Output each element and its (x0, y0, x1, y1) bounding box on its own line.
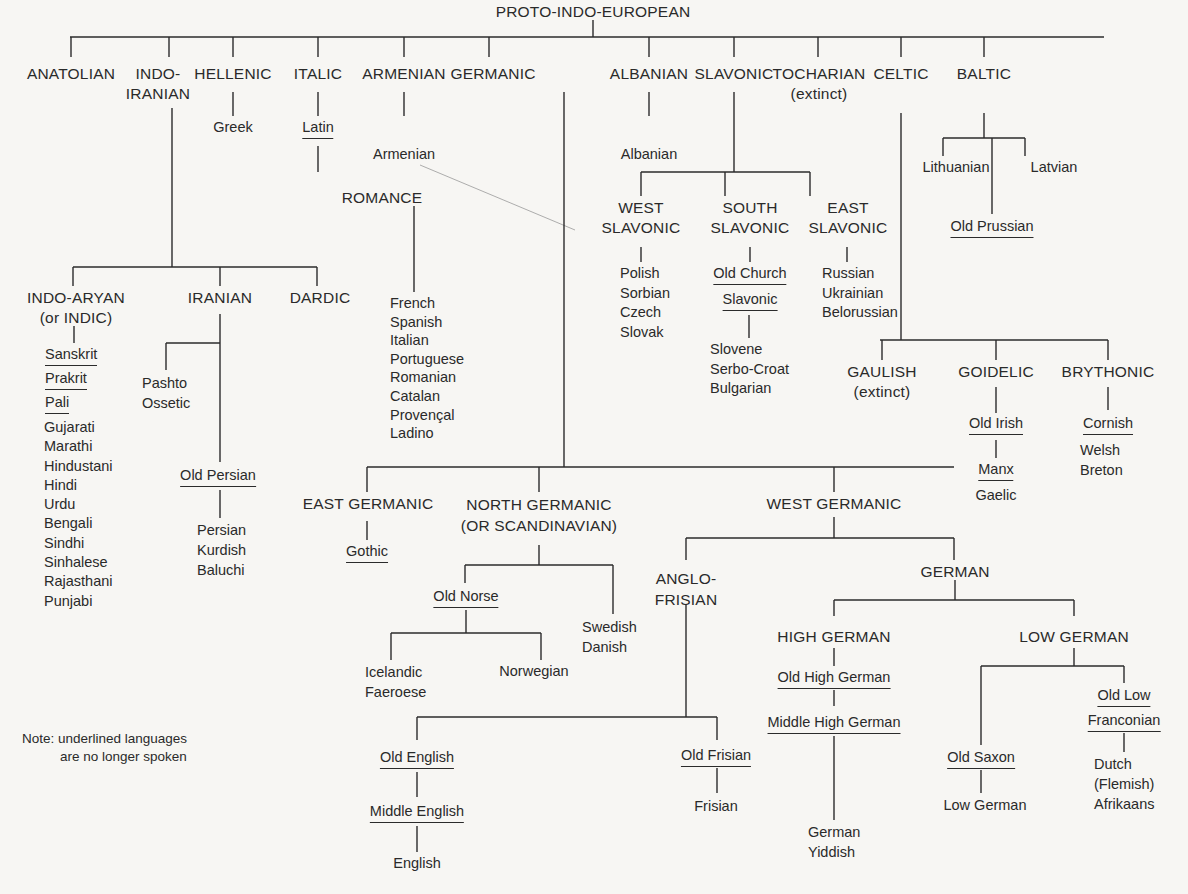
branch-slavonic: SLAVONIC (695, 64, 774, 83)
lang-item: Sorbian (620, 284, 670, 304)
lang-item: Danish (582, 637, 637, 657)
label-line: GAULISH (847, 362, 916, 382)
branch-low-german: LOW GERMAN (1019, 627, 1129, 646)
branch-anglo-frisian: ANGLO- FRISIAN (655, 568, 718, 610)
lang-item: Persian (197, 520, 246, 540)
lang-item: Ladino (390, 424, 464, 443)
lang-sanskrit: Sanskrit (45, 345, 97, 366)
branch-tocharian: TOCHARIAN (extinct) (773, 64, 866, 104)
lang-item: Punjabi (44, 592, 113, 611)
lang-item: Serbo-Croat (710, 360, 789, 380)
lang-item: Urdu (44, 495, 113, 514)
branch-goidelic: GOIDELIC (958, 362, 1034, 381)
branch-iranian: IRANIAN (188, 288, 252, 307)
lang-greek: Greek (213, 118, 253, 137)
lang-old-low-franconian: Franconian (1088, 711, 1161, 732)
branch-celtic: CELTIC (873, 64, 928, 83)
label-line: SLAVONIC (809, 218, 888, 238)
east-slavonic-languages: Russian Ukrainian Belorussian (822, 264, 898, 323)
branch-italic: ITALIC (294, 64, 342, 83)
label-line: SLAVONIC (602, 218, 681, 238)
branch-west-germanic: WEST GERMANIC (767, 494, 902, 513)
note-line: Note: underlined languages (22, 730, 187, 748)
lang-item: Kurdish (197, 540, 246, 560)
lang-pali: Pali (45, 393, 69, 414)
lang-old-irish: Old Irish (969, 414, 1023, 435)
lang-old-english: Old English (380, 748, 454, 769)
branch-baltic: BALTIC (957, 64, 1011, 83)
norse-east-languages: Swedish Danish (582, 617, 637, 657)
lang-old-church-slavonic: Slavonic (723, 290, 778, 311)
branch-indo-iranian: INDO- IRANIAN (126, 64, 190, 104)
lang-frisian: Frisian (694, 797, 738, 816)
lang-item: Bulgarian (710, 379, 789, 399)
lang-item: Provençal (390, 406, 464, 425)
lang-item: Welsh (1080, 440, 1123, 460)
label-line: ANGLO- (655, 568, 718, 589)
lang-english: English (393, 854, 441, 873)
lang-latin: Latin (302, 118, 333, 139)
label-line: (extinct) (847, 382, 916, 402)
lang-middle-english: Middle English (370, 802, 464, 823)
norse-west-languages: Icelandic Faeroese (365, 662, 426, 702)
lang-middle-high-german: Middle High German (768, 713, 901, 734)
branch-brythonic: BRYTHONIC (1062, 362, 1155, 381)
lang-item: Polish (620, 264, 670, 284)
lang-item: Portuguese (390, 350, 464, 369)
lang-prakrit: Prakrit (45, 369, 87, 390)
branch-east-slavonic: EAST SLAVONIC (809, 198, 888, 238)
romance-languages: French Spanish Italian Portuguese Romani… (390, 294, 464, 443)
lang-item: Italian (390, 331, 464, 350)
lang-item: German (808, 822, 860, 842)
lang-item: Breton (1080, 460, 1123, 480)
lang-item: Rajasthani (44, 572, 113, 591)
lang-armenian: Armenian (373, 145, 435, 164)
label-line: (extinct) (773, 84, 866, 104)
lang-item: Ossetic (142, 393, 190, 413)
lang-old-church: Old Church (713, 264, 786, 285)
branch-german: GERMAN (920, 562, 989, 581)
lang-old-high-german: Old High German (778, 668, 891, 689)
brythonic-languages: Welsh Breton (1080, 440, 1123, 480)
label-line: INDO- (126, 64, 190, 84)
lang-item: Marathi (44, 437, 113, 456)
high-german-languages: German Yiddish (808, 822, 860, 862)
iranian-east-languages: Pashto Ossetic (142, 373, 190, 413)
label-line: WEST (602, 198, 681, 218)
note-legend: Note: underlined languages are no longer… (22, 730, 187, 766)
lang-item: Swedish (582, 617, 637, 637)
lang-manx: Manx (978, 460, 1013, 481)
branch-hellenic: HELLENIC (194, 64, 271, 83)
label-line: (or INDIC) (27, 308, 125, 328)
branch-germanic: GERMANIC (450, 64, 535, 83)
branch-albanian: ALBANIAN (610, 64, 688, 83)
lang-item: Sindhi (44, 534, 113, 553)
lang-item: Faeroese (365, 682, 426, 702)
label-line: INDO-ARYAN (27, 288, 125, 308)
lang-cornish: Cornish (1083, 414, 1133, 435)
branch-south-slavonic: SOUTH SLAVONIC (711, 198, 790, 238)
lang-latvian: Latvian (1031, 158, 1078, 177)
south-slavonic-languages: Slovene Serbo-Croat Bulgarian (710, 340, 789, 399)
label-line: SOUTH (711, 198, 790, 218)
lang-item: French (390, 294, 464, 313)
note-line: are no longer spoken (22, 748, 187, 766)
branch-indo-aryan: INDO-ARYAN (or INDIC) (27, 288, 125, 328)
branch-anatolian: ANATOLIAN (27, 64, 115, 83)
lang-item: Pashto (142, 373, 190, 393)
lang-old-persian: Old Persian (180, 466, 256, 487)
lang-old-frisian: Old Frisian (681, 746, 751, 767)
lang-item: Bengali (44, 514, 113, 533)
branch-north-germanic: NORTH GERMANIC (OR SCANDINAVIAN) (461, 494, 617, 536)
lang-item: (Flemish) (1094, 774, 1154, 794)
lang-low-german: Low German (943, 796, 1026, 815)
lang-lithuanian: Lithuanian (923, 158, 990, 177)
label-line: EAST (809, 198, 888, 218)
branch-west-slavonic: WEST SLAVONIC (602, 198, 681, 238)
label-line: NORTH GERMANIC (461, 494, 617, 515)
west-slavonic-languages: Polish Sorbian Czech Slovak (620, 264, 670, 342)
lang-item: Belorussian (822, 303, 898, 323)
label-line: (OR SCANDINAVIAN) (461, 515, 617, 536)
indo-aryan-languages: Gujarati Marathi Hindustani Hindi Urdu B… (44, 418, 113, 611)
lang-item: Baluchi (197, 560, 246, 580)
